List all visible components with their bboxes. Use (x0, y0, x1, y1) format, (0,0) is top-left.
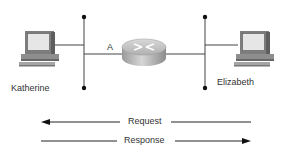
request-label: Request (128, 116, 162, 126)
router-icon (122, 39, 166, 66)
response-label: Response (124, 135, 165, 145)
computer-icon (19, 31, 59, 67)
right-lan-segment (203, 15, 207, 90)
left-lan-segment (82, 15, 86, 90)
host-label-elizabeth: Elizabeth (217, 77, 254, 87)
computer-icon (234, 31, 274, 67)
link-label-a: A (107, 42, 113, 52)
host-label-katherine: Katherine (11, 83, 50, 93)
